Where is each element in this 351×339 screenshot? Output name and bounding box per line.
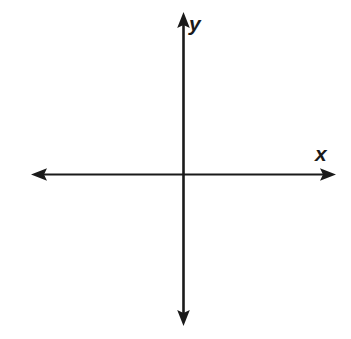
coordinate-plane-figure: planar intersect the to parts line y x bbox=[0, 0, 351, 339]
y-axis-label: y bbox=[189, 13, 201, 34]
x-axis-label: x bbox=[315, 143, 327, 164]
axes-drawing bbox=[0, 0, 351, 339]
